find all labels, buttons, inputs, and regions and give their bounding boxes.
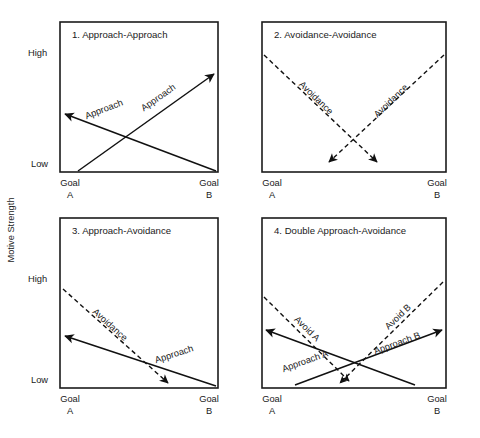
panel-3-high-label: High	[28, 274, 47, 284]
panel-4-goal-b-label: Goal	[427, 394, 447, 404]
panel-1-high-label: High	[28, 48, 47, 58]
panel-3-goal-a-letter: A	[67, 406, 74, 416]
panel-3-frame	[60, 218, 218, 388]
panel-1-goal-a-letter: A	[67, 190, 74, 200]
panel-4-group: 4. Double Approach-Avoidance Avoid A Avo…	[262, 218, 447, 416]
panel-4-goal-a-letter: A	[269, 406, 276, 416]
panel-3-low-label: Low	[31, 375, 48, 385]
panel-1-frame	[60, 22, 218, 172]
panel-2-goal-a-label: Goal	[262, 178, 282, 188]
panel-1-goal-a-label: Goal	[60, 178, 80, 188]
panel-3-goal-b-label: Goal	[199, 394, 219, 404]
panel-2-goal-a-letter: A	[269, 190, 276, 200]
panel-4-title: 4. Double Approach-Avoidance	[274, 225, 406, 236]
panel-2-goal-b-label: Goal	[427, 178, 447, 188]
panel-2-title: 2. Avoidance-Avoidance	[274, 29, 377, 40]
panel-3-goal-a-label: Goal	[60, 394, 80, 404]
panel-1-group: 1. Approach-Approach High Low Approach A…	[28, 22, 219, 200]
panel-1-low-label: Low	[31, 159, 48, 169]
panel-3-group: 3. Approach-Avoidance High Low Avoidance…	[28, 218, 219, 416]
panel-3-title: 3. Approach-Avoidance	[72, 225, 171, 236]
y-axis-title: Motive Strength	[6, 197, 16, 262]
panel-3-goal-b-letter: B	[206, 406, 212, 416]
panel-2-frame	[262, 22, 446, 172]
motive-conflict-figure: Motive Strength 1. Approach-Approach Hig…	[0, 0, 480, 438]
panel-2-group: 2. Avoidance-Avoidance Avoidance Avoidan…	[262, 22, 447, 200]
panel-4-goal-a-label: Goal	[262, 394, 282, 404]
figure-canvas: Motive Strength 1. Approach-Approach Hig…	[0, 0, 480, 438]
panel-4-goal-b-letter: B	[434, 406, 440, 416]
panel-1-title: 1. Approach-Approach	[72, 29, 167, 40]
panel-2-goal-b-letter: B	[434, 190, 440, 200]
panel-1-goal-b-label: Goal	[199, 178, 219, 188]
panel-1-goal-b-letter: B	[206, 190, 212, 200]
